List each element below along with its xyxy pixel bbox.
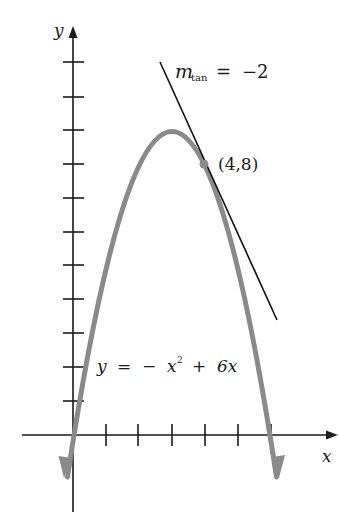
- svg-text:−2: −2: [242, 61, 269, 82]
- svg-text:y: y: [96, 356, 107, 376]
- curve-equation-label: y = − x 2 + 6x: [96, 355, 238, 376]
- svg-text:x: x: [167, 356, 177, 376]
- svg-text:tan: tan: [191, 72, 208, 83]
- point-label: (4,8): [218, 154, 258, 174]
- tangent-slope-label: m tan = −2: [175, 60, 269, 83]
- x-axis-arrow-icon: [326, 431, 338, 440]
- tangent-point-marker: [200, 160, 209, 169]
- svg-text:−: −: [142, 356, 156, 376]
- x-axis-label: x: [322, 446, 332, 466]
- svg-text:+: +: [192, 356, 206, 376]
- svg-text:2: 2: [177, 355, 183, 365]
- svg-text:=: =: [216, 61, 231, 82]
- graph-figure: y x (4,8) m tan = −2 y = − x 2 + 6x: [0, 0, 339, 520]
- svg-text:6x: 6x: [217, 356, 238, 376]
- tangent-line: [160, 62, 277, 320]
- y-axis-arrow-icon: [69, 26, 78, 38]
- svg-text:=: =: [117, 356, 131, 376]
- y-axis-label: y: [53, 20, 64, 40]
